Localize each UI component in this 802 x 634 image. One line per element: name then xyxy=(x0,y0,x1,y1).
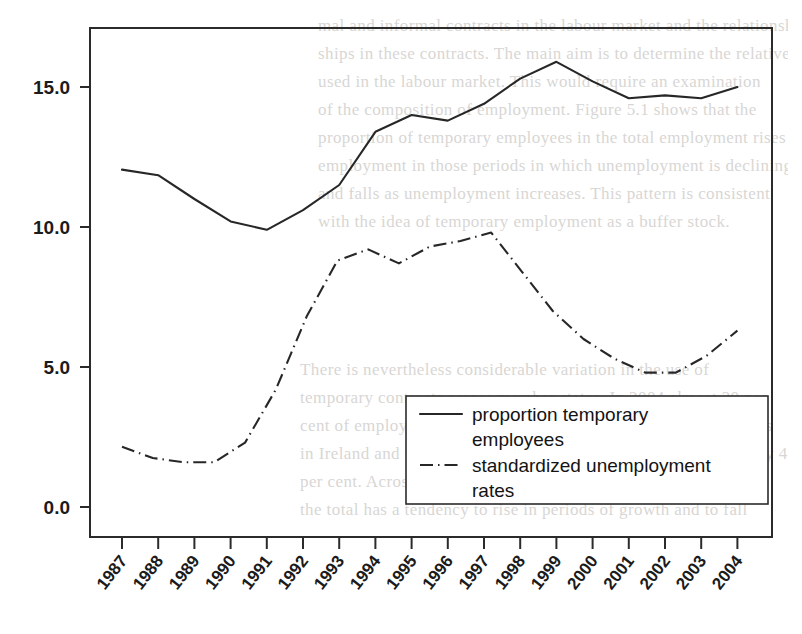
chart-legend: proportion temporary employees standardi… xyxy=(406,396,768,504)
legend-label-standardized-unemployment-rates-line2: rates xyxy=(472,480,514,501)
x-axis-tick-label: 1988 xyxy=(129,552,167,594)
x-axis-tick-label: 1997 xyxy=(455,552,493,594)
x-axis-tick-label: 2002 xyxy=(636,552,674,594)
x-axis-tick-label: 1993 xyxy=(310,552,348,594)
y-axis-ticks xyxy=(80,87,90,507)
x-axis-tick-label: 2000 xyxy=(563,552,601,594)
x-axis-tick-label: 1995 xyxy=(382,552,420,594)
chart-canvas: 0.05.010.015.0 1987198819891990199119921… xyxy=(0,0,802,634)
line-chart-figure: 0.05.010.015.0 1987198819891990199119921… xyxy=(0,0,802,634)
y-axis-tick-labels: 0.05.010.015.0 xyxy=(33,77,70,518)
x-axis-tick-label: 1991 xyxy=(238,552,276,594)
x-axis-tick-label: 1998 xyxy=(491,552,529,594)
x-axis-tick-label: 1994 xyxy=(346,551,385,593)
y-axis-tick-label: 15.0 xyxy=(33,77,70,98)
legend-label-standardized-unemployment-rates-line1: standardized unemployment xyxy=(472,455,711,476)
x-axis-tick-label: 1992 xyxy=(274,552,312,594)
x-axis-tick-label: 1999 xyxy=(527,552,565,594)
series-line-proportion-temporary-employees xyxy=(122,62,737,230)
x-axis-tick-label: 1990 xyxy=(201,552,239,594)
y-axis-tick-label: 0.0 xyxy=(44,497,70,518)
y-axis-tick-label: 10.0 xyxy=(33,217,70,238)
x-axis-tick-label: 2001 xyxy=(600,552,638,594)
x-axis-tick-labels: 1987198819891990199119921993199419951996… xyxy=(93,551,747,593)
y-axis-tick-label: 5.0 xyxy=(44,357,70,378)
x-axis-tick-label: 1989 xyxy=(165,552,203,594)
x-axis-tick-label: 1996 xyxy=(419,552,457,594)
x-axis-tick-label: 2003 xyxy=(672,552,710,594)
legend-label-proportion-temporary-employees-line1: proportion temporary xyxy=(472,404,649,425)
x-axis-ticks xyxy=(122,537,737,549)
legend-label-proportion-temporary-employees-line2: employees xyxy=(472,429,564,450)
x-axis-tick-label: 1987 xyxy=(93,552,131,594)
x-axis-tick-label: 2004 xyxy=(708,551,747,593)
